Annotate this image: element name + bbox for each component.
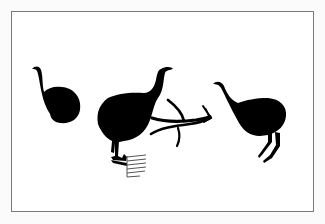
rock-art-illustration bbox=[0, 0, 325, 224]
bird-center-icon bbox=[97, 67, 173, 177]
bird-left-icon bbox=[32, 66, 80, 123]
bird-right-icon bbox=[213, 82, 286, 163]
branch-motif-icon bbox=[151, 100, 211, 146]
